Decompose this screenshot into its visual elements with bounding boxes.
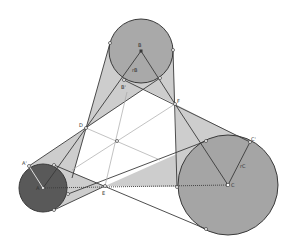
tangent-pt-a3	[53, 209, 56, 212]
label-c-prime: C'	[251, 136, 256, 142]
label-a: A	[36, 185, 40, 191]
label-rc: rC	[240, 163, 246, 169]
label-f: F	[177, 98, 180, 104]
point-e	[104, 185, 107, 188]
tangent-pt-a2	[67, 193, 70, 196]
label-d: D	[79, 122, 83, 128]
tangent-pt-c3	[205, 228, 208, 231]
line-b-a-outer	[29, 78, 160, 166]
diagram-canvas: D F E A' B' C' B C A rB rC	[0, 0, 287, 252]
tangent-pt-c1	[205, 140, 208, 143]
point-d	[85, 127, 88, 130]
center-a	[42, 187, 44, 189]
label-b: B	[138, 42, 142, 48]
point-a-prime	[28, 165, 31, 168]
tangent-pt-b4	[123, 79, 126, 82]
label-rb: rB	[132, 67, 138, 73]
tangent-pt-a1	[53, 164, 56, 167]
tangent-pt-b3	[159, 77, 162, 80]
tangent-pt-c2	[176, 186, 179, 189]
center-c	[227, 184, 230, 187]
tangent-pt-b1	[109, 42, 112, 45]
guide-d-o	[86, 128, 160, 160]
point-center	[116, 140, 119, 143]
label-c: C	[231, 182, 235, 188]
label-e: E	[102, 190, 105, 196]
label-b-prime: B'	[121, 84, 126, 90]
label-a-prime: A'	[22, 160, 27, 166]
center-b	[140, 50, 143, 53]
tangent-pt-b2	[172, 49, 175, 52]
geometry-diagram: D F E A' B' C' B C A rB rC	[0, 0, 287, 252]
